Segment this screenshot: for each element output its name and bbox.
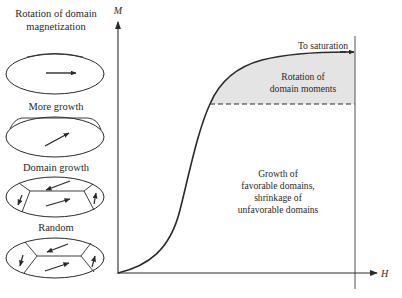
domain-arrow-icon	[46, 199, 70, 206]
growth-region-label-line1: Growth of	[258, 168, 299, 179]
growth-region-label-line4: unfavorable domains	[238, 204, 319, 215]
growth-region-label-line2: favorable domains,	[241, 180, 315, 191]
magnetization-diagram: Rotation of domain magnetization More gr…	[0, 0, 402, 298]
domain-arrow-icon	[45, 263, 69, 271]
stage-caption-line1: Rotation of domain	[15, 8, 97, 19]
rotation-region-label-line2: domain moments	[270, 83, 337, 94]
domain-arrow-icon	[46, 181, 70, 190]
domain-arrow-icon	[20, 255, 23, 266]
mh-plot: M H To saturation Rotation of domain mom…	[113, 5, 389, 289]
rotation-region-label-line1: Rotation of	[281, 71, 325, 82]
growth-region-label-line3: shrinkage of	[254, 192, 302, 203]
stage-random: Random	[6, 222, 104, 278]
stage-caption-line2: magnetization	[26, 21, 86, 32]
domain-ellipse-icon	[6, 117, 104, 157]
domain-arrow-icon	[92, 256, 95, 267]
to-saturation-label: To saturation	[298, 40, 348, 51]
domain-arrow-icon	[47, 244, 68, 252]
stage-caption: Domain growth	[23, 162, 90, 173]
domain-ellipse-icon	[6, 54, 104, 95]
stage-more-growth: More growth	[6, 101, 104, 157]
domain-ellipse-icon	[6, 177, 104, 217]
stage-domain-growth: Domain growth	[6, 162, 104, 217]
magnetization-arrow-icon	[45, 133, 69, 146]
domain-arrow-icon	[94, 193, 96, 204]
stage-rotation: Rotation of domain magnetization	[6, 8, 104, 94]
x-axis-label: H	[380, 268, 389, 279]
stage-caption: More growth	[28, 101, 84, 112]
stage-caption: Random	[38, 222, 74, 233]
domain-arrow-icon	[18, 195, 22, 205]
y-axis-label: M	[113, 5, 123, 16]
domain-ellipse-icon	[6, 238, 104, 278]
